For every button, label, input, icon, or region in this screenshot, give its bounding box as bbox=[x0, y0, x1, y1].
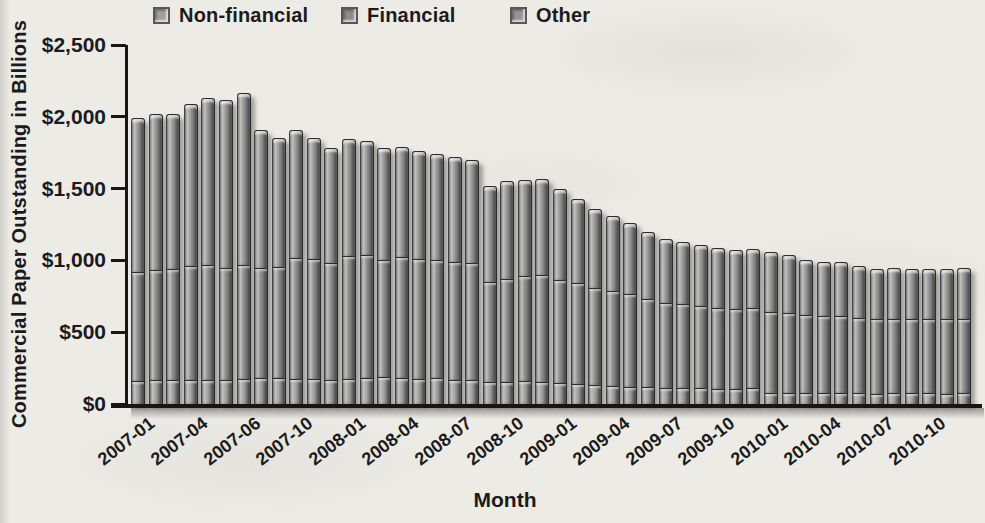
bar-segment-financial bbox=[500, 279, 514, 382]
bar-segment-other bbox=[606, 216, 620, 291]
y-axis-line bbox=[125, 45, 128, 407]
bar-segment-non-financial bbox=[342, 379, 356, 404]
bar-segment-financial bbox=[307, 259, 321, 379]
bar-2008-03 bbox=[377, 148, 391, 404]
bar-segment-other bbox=[149, 114, 163, 270]
bar-segment-financial bbox=[219, 268, 233, 380]
legend-swatch-financial bbox=[341, 7, 358, 24]
bar-segment-other bbox=[465, 160, 479, 263]
bar-segment-non-financial bbox=[817, 393, 831, 404]
bar-segment-non-financial bbox=[571, 384, 585, 404]
bar-segment-other bbox=[852, 266, 866, 318]
bar-segment-financial bbox=[729, 309, 743, 389]
bar-segment-other bbox=[377, 148, 391, 260]
bar-segment-financial bbox=[289, 258, 303, 379]
bar-segment-financial bbox=[764, 312, 778, 392]
bar-segment-financial bbox=[817, 316, 831, 394]
bar-segment-financial bbox=[518, 276, 532, 381]
bar-segment-financial bbox=[324, 263, 338, 379]
bar-segment-non-financial bbox=[307, 379, 321, 404]
legend-swatch-non-financial bbox=[153, 7, 170, 24]
bar-2008-05 bbox=[412, 151, 426, 404]
bar-segment-financial bbox=[412, 259, 426, 379]
bar-2007-08 bbox=[254, 130, 268, 404]
bar-segment-financial bbox=[887, 319, 901, 394]
bar-segment-non-financial bbox=[324, 380, 338, 404]
bar-segment-financial bbox=[272, 267, 286, 378]
bar-segment-non-financial bbox=[483, 382, 497, 404]
bar-segment-non-financial bbox=[272, 378, 286, 404]
bar-2008-07 bbox=[448, 157, 462, 404]
bar-segment-other bbox=[131, 118, 145, 272]
bar-segment-financial bbox=[254, 268, 268, 379]
bar-segment-non-financial bbox=[887, 393, 901, 404]
bar-segment-non-financial bbox=[360, 378, 374, 404]
bar-segment-other bbox=[887, 268, 901, 319]
bar-segment-financial bbox=[676, 304, 690, 388]
bar-segment-non-financial bbox=[448, 380, 462, 404]
bar-segment-other bbox=[237, 93, 251, 265]
bar-segment-other bbox=[219, 100, 233, 268]
bar-segment-other bbox=[957, 268, 971, 319]
bar-2010-03 bbox=[799, 260, 813, 404]
bar-2010-11 bbox=[940, 269, 954, 404]
bar-segment-other bbox=[711, 248, 725, 308]
bar-segment-other bbox=[922, 269, 936, 319]
bar-2007-10 bbox=[289, 130, 303, 404]
bar-segment-other bbox=[676, 242, 690, 304]
bar-segment-financial bbox=[430, 260, 444, 378]
bar-segment-financial bbox=[166, 269, 180, 380]
bar-segment-financial bbox=[483, 282, 497, 382]
bar-segment-non-financial bbox=[922, 393, 936, 404]
legend-label-financial: Financial bbox=[367, 4, 456, 27]
bar-segment-financial bbox=[659, 303, 673, 388]
bar-segment-other bbox=[307, 138, 321, 259]
bar-segment-non-financial bbox=[623, 387, 637, 404]
bar-segment-financial bbox=[553, 280, 567, 383]
bar-segment-other bbox=[448, 157, 462, 262]
bar-2009-03 bbox=[588, 209, 602, 404]
bar-segment-other bbox=[395, 147, 409, 257]
plot-area bbox=[131, 45, 975, 404]
bar-segment-other bbox=[870, 269, 884, 319]
bar-segment-non-financial bbox=[237, 379, 251, 404]
bar-segment-non-financial bbox=[254, 378, 268, 404]
bar-2007-06 bbox=[219, 100, 233, 404]
bar-segment-non-financial bbox=[606, 386, 620, 404]
bar-2009-01 bbox=[553, 189, 567, 404]
bar-2008-06 bbox=[430, 154, 444, 404]
legend-item-other: Other bbox=[510, 4, 590, 27]
bar-segment-financial bbox=[799, 315, 813, 393]
bar-2009-06 bbox=[641, 232, 655, 404]
bar-segment-non-financial bbox=[940, 394, 954, 404]
y-tick-mark bbox=[111, 44, 126, 47]
bar-segment-financial bbox=[922, 319, 936, 393]
bar-2007-05 bbox=[201, 98, 215, 404]
bar-segment-financial bbox=[465, 263, 479, 380]
bar-segment-financial bbox=[448, 262, 462, 380]
bar-segment-other bbox=[201, 98, 215, 265]
y-tick-label: $0 bbox=[6, 392, 106, 416]
bar-segment-non-financial bbox=[412, 379, 426, 404]
bar-2010-08 bbox=[887, 268, 901, 404]
bar-segment-other bbox=[483, 186, 497, 282]
bar-2008-10 bbox=[500, 181, 514, 404]
bar-2010-01 bbox=[764, 252, 778, 404]
y-tick-label: $2,000 bbox=[6, 105, 106, 129]
bar-segment-other bbox=[342, 139, 356, 256]
bar-segment-non-financial bbox=[149, 380, 163, 404]
x-tick-label-2010-10: 2010-10 bbox=[851, 413, 951, 497]
bar-segment-financial bbox=[641, 299, 655, 387]
bar-segment-non-financial bbox=[518, 381, 532, 404]
y-tick-mark bbox=[111, 259, 126, 262]
y-axis-label: Commercial Paper Outstanding in Billions bbox=[8, 20, 31, 428]
bar-segment-other bbox=[729, 250, 743, 309]
bar-segment-other bbox=[782, 255, 796, 313]
bar-segment-non-financial bbox=[746, 388, 760, 404]
bar-segment-non-financial bbox=[799, 393, 813, 404]
bar-segment-financial bbox=[623, 294, 637, 387]
bar-2008-04 bbox=[395, 147, 409, 404]
bar-segment-other bbox=[571, 199, 585, 284]
bar-segment-other bbox=[184, 104, 198, 266]
bar-segment-non-financial bbox=[905, 393, 919, 404]
